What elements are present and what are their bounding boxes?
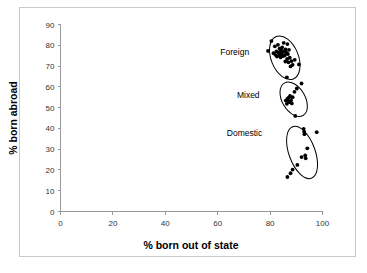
- data-point: [288, 56, 292, 60]
- y-tick-label: 40: [46, 124, 55, 133]
- annotations-group: ForeignMixedDomestic: [220, 47, 263, 138]
- cluster-label-foreign: Foreign: [220, 47, 249, 57]
- scatter-plot: 0102030405060708090020406080100 ForeignM…: [0, 0, 367, 273]
- cluster-label-domestic: Domestic: [227, 128, 263, 138]
- data-point: [291, 95, 295, 99]
- data-point: [297, 62, 301, 66]
- y-tick-label: 70: [46, 62, 55, 71]
- data-point: [300, 82, 304, 86]
- cluster-ellipse-mixed: [274, 77, 313, 121]
- x-axis-title: % born out of state: [143, 239, 238, 251]
- data-point: [287, 48, 291, 52]
- x-tick-label: 100: [316, 219, 330, 228]
- data-point: [270, 39, 274, 43]
- x-tick-label: 20: [108, 219, 117, 228]
- data-point: [295, 87, 299, 91]
- x-tick-label: 80: [266, 219, 275, 228]
- chart-figure: 0102030405060708090020406080100 ForeignM…: [0, 0, 367, 273]
- data-point: [304, 156, 308, 160]
- data-point: [286, 52, 290, 56]
- data-point: [289, 171, 293, 175]
- data-point: [293, 114, 297, 118]
- data-point: [293, 90, 297, 94]
- data-point: [305, 146, 309, 150]
- y-tick-label: 60: [46, 83, 55, 92]
- data-point: [285, 42, 289, 46]
- clusters-group: [264, 31, 324, 182]
- data-point: [295, 163, 299, 167]
- data-point: [284, 48, 288, 52]
- y-tick-label: 80: [46, 41, 55, 50]
- cluster-label-mixed: Mixed: [237, 90, 260, 100]
- y-tick-label: 20: [46, 166, 55, 175]
- x-tick-label: 40: [161, 219, 170, 228]
- x-tick-label: 60: [213, 219, 222, 228]
- data-point: [266, 49, 270, 53]
- data-point: [283, 60, 287, 64]
- x-tick-label: 0: [58, 219, 63, 228]
- y-tick-label: 90: [46, 21, 55, 30]
- data-point: [282, 41, 286, 45]
- data-point: [291, 168, 295, 172]
- data-point: [291, 63, 295, 67]
- data-point: [303, 132, 307, 136]
- data-point: [276, 43, 280, 47]
- y-tick-label: 50: [46, 104, 55, 113]
- y-tick-label: 10: [46, 187, 55, 196]
- cluster-ellipse-foreign: [264, 31, 306, 84]
- y-tick-label: 0: [50, 208, 55, 217]
- data-point: [290, 102, 294, 106]
- data-point: [280, 45, 284, 49]
- data-point: [285, 175, 289, 179]
- y-tick-label: 30: [46, 145, 55, 154]
- data-point: [285, 75, 289, 79]
- y-axis-title: % born abroad: [7, 81, 19, 155]
- data-point: [293, 58, 297, 62]
- data-point: [315, 130, 319, 134]
- data-point: [300, 155, 304, 159]
